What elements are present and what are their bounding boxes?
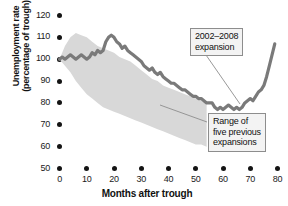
range-callout-line3: expansions <box>213 137 261 148</box>
expansion-callout-line1: 2002–2008 <box>195 31 238 42</box>
range-callout: Range offive previousexpansions <box>208 113 266 152</box>
chart-container: Unemployment rate (percentage of trough)… <box>0 0 288 206</box>
expansion-leader-line <box>206 55 240 104</box>
plot-area <box>0 0 288 206</box>
expansion-callout: 2002–2008expansion <box>190 28 243 56</box>
expansion-callout-line2: expansion <box>195 42 238 53</box>
range-callout-line1: Range of <box>213 116 261 127</box>
range-callout-line2: five previous <box>213 127 261 138</box>
